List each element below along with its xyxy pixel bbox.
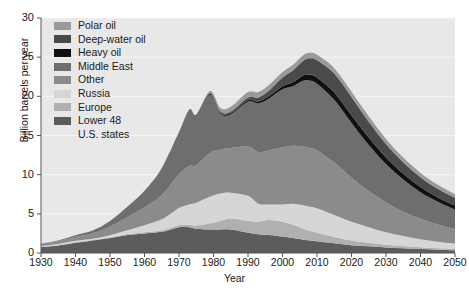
legend-swatch-icon [54,117,71,125]
legend-label: Heavy oil [78,46,121,60]
legend-swatch-icon [54,63,71,71]
legend-label: Europe [78,101,112,115]
legend-label: Middle East [78,60,133,74]
legend-item: Deep-water oil [54,33,146,47]
legend-label: Deep-water oil [78,33,146,47]
legend-item: Russia [54,87,146,101]
legend-swatch-icon [54,35,71,43]
legend-item: Heavy oil [54,46,146,60]
legend-label: Lower 48 [78,114,121,128]
legend-item: Europe [54,101,146,115]
legend-swatch-icon [54,22,71,30]
oil-production-stacked-area-chart: Billion barrels per year Year 0510152025… [0,0,469,289]
chart-legend: Polar oilDeep-water oilHeavy oilMiddle E… [54,19,146,141]
legend-swatch-icon [54,76,71,84]
legend-item: Middle East [54,60,146,74]
legend-swatch-icon [54,103,71,111]
legend-label: Other [78,73,104,87]
legend-label: Russia [78,87,110,101]
legend-label-continuation: U.S. states [78,128,146,142]
legend-label: Polar oil [78,19,116,33]
legend-swatch-icon [54,49,71,57]
legend-item: Other [54,73,146,87]
legend-item: Lower 48 [54,114,146,128]
legend-item: Polar oil [54,19,146,33]
legend-swatch-icon [54,90,71,98]
